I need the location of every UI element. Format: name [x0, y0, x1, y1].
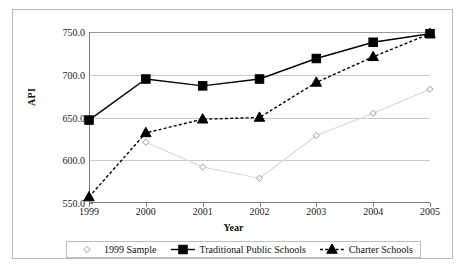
legend-marker-icon: [74, 244, 100, 255]
x-tick-label-1999: 1999: [79, 206, 99, 218]
x-tick-label-2005: 2005: [420, 206, 440, 218]
data-point: [312, 54, 321, 63]
plot-area: [89, 32, 430, 203]
legend-label: 1999 Sample: [104, 244, 157, 255]
chart-legend: 1999 SampleTraditional Public SchoolsCha…: [66, 241, 421, 258]
x-tick-label-2002: 2002: [250, 206, 270, 218]
data-point: [254, 112, 264, 121]
legend-marker-icon: [319, 244, 345, 255]
y-axis-title: API: [26, 88, 37, 106]
x-axis-tick-labels: 1999200020012002200320042005: [89, 206, 430, 220]
legend-label: Traditional Public Schools: [200, 244, 306, 255]
x-tick-label-2000: 2000: [136, 206, 156, 218]
legend-entry-traditional-public-schools: Traditional Public Schools: [170, 244, 306, 255]
data-point: [197, 114, 207, 123]
series-line: [146, 89, 430, 178]
x-tick-label-2004: 2004: [363, 206, 383, 218]
data-point: [85, 116, 94, 125]
legend-label: Charter Schools: [349, 244, 413, 255]
data-point: [427, 86, 433, 92]
y-tick-label-700: 700.0: [63, 69, 86, 80]
data-point: [143, 139, 149, 145]
y-tick-label-650: 650.0: [63, 112, 86, 123]
figure-frame: API 750.0700.0650.0600.0550.0 1999200020…: [12, 9, 453, 259]
legend-entry-1999-sample: 1999 Sample: [74, 244, 157, 255]
data-point: [370, 110, 376, 116]
data-point: [369, 38, 378, 47]
series-canvas: [89, 32, 430, 203]
y-axis-tick-labels: 750.0700.0650.0600.0550.0: [39, 32, 85, 203]
y-tick-label-750: 750.0: [63, 27, 86, 38]
data-point: [200, 164, 206, 170]
y-tick-label-600: 600.0: [63, 155, 86, 166]
data-point: [198, 82, 207, 91]
data-point: [142, 75, 151, 84]
x-axis-title: Year: [13, 222, 454, 233]
chart-screenshot: API 750.0700.0650.0600.0550.0 1999200020…: [0, 0, 465, 268]
legend-entry-charter-schools: Charter Schools: [319, 244, 413, 255]
x-tick-label-2001: 2001: [193, 206, 213, 218]
data-point: [255, 75, 264, 84]
x-tick-label-2003: 2003: [306, 206, 326, 218]
legend-marker-icon: [170, 244, 196, 255]
